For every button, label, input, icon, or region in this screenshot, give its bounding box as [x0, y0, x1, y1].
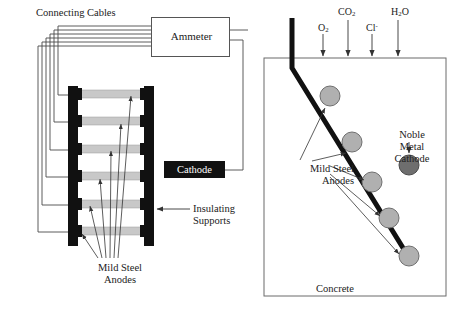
- connecting-cable-1: [58, 26, 151, 95]
- mild-steel-anodes-label-right: Mild Steel Anodes: [288, 163, 354, 187]
- anode-bar-6: [78, 227, 144, 235]
- anode-bar-2: [78, 117, 144, 125]
- noble-metal-cathode-label: Noble Metal Cathode: [382, 129, 442, 164]
- ammeter-box: Ammeter: [151, 17, 230, 57]
- species-carbon-dioxide-main: CO: [338, 6, 352, 17]
- mild-steel-anodes-label-left: Mild Steel Anodes: [77, 262, 163, 286]
- noble-metal-cathode-line-1: Noble: [382, 129, 442, 141]
- species-water-tail: O: [402, 6, 409, 17]
- connecting-cables-label: Connecting Cables: [36, 7, 116, 19]
- mild-steel-anode-circle-5: [399, 246, 419, 266]
- species-label-oxygen: O2: [318, 22, 329, 33]
- species-oxygen-sub: 2: [325, 26, 328, 33]
- insulating-supports-line-2: Supports: [193, 215, 235, 227]
- insulating-support-right-rail: [144, 86, 154, 246]
- mild-steel-anodes-left-line-2: Anodes: [77, 274, 163, 286]
- cathode-box: Cathode: [164, 161, 225, 178]
- cathode-label: Cathode: [164, 164, 225, 175]
- species-carbon-dioxide-sub: 2: [352, 10, 355, 17]
- insulating-support-left-rail: [68, 86, 78, 246]
- species-label-chloride: Cl-: [366, 22, 378, 33]
- mild-steel-anode-circle-2: [342, 132, 362, 152]
- insulating-supports-label: Insulating Supports: [193, 203, 235, 227]
- mild-steel-anode-circle-4: [379, 208, 399, 228]
- insulating-supports-line-1: Insulating: [193, 203, 235, 215]
- mild-steel-anode-circle-1: [320, 86, 340, 106]
- concrete-label: Concrete: [316, 283, 354, 295]
- species-chloride-sup: -: [375, 22, 377, 29]
- anode-bar-1: [78, 90, 144, 98]
- ammeter-label: Ammeter: [152, 30, 231, 42]
- mild-steel-anodes-left-line-1: Mild Steel: [77, 262, 163, 274]
- noble-metal-cathode-line-2: Metal: [382, 141, 442, 153]
- ammeter-to-cathode-wire: [225, 40, 243, 170]
- species-arrows-group: [323, 20, 398, 56]
- anode-bar-5: [78, 200, 144, 208]
- corrosion-schematic-figure: Connecting Cables Ammeter Cathode Insula…: [0, 0, 457, 311]
- mild-steel-anodes-right-line-2: Anodes: [288, 175, 354, 187]
- mild-steel-anode-circle-3: [362, 172, 382, 192]
- species-label-water: H2O: [391, 6, 409, 17]
- species-label-carbon-dioxide: CO2: [338, 6, 355, 17]
- mild-steel-anodes-right-line-1: Mild Steel: [288, 163, 354, 175]
- noble-metal-cathode-line-3: Cathode: [382, 153, 442, 165]
- connecting-cable-4: [46, 38, 151, 177]
